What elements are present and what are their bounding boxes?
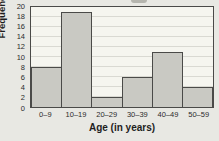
- x-tick-label: 20–29: [91, 110, 122, 119]
- x-tick-label: 10–19: [61, 110, 92, 119]
- y-tick-label: 10: [17, 54, 25, 61]
- x-axis-title: Age (in years): [30, 122, 214, 133]
- x-axis-tick-labels: 0–910–1920–2930–3940–4950–59: [30, 110, 214, 119]
- y-tick-label: 8: [21, 64, 25, 71]
- y-tick-label: 4: [21, 84, 25, 91]
- y-tick-label: 12: [17, 43, 25, 50]
- bar-10–19: [61, 12, 92, 107]
- y-axis-tick-labels: 02468101214161820: [0, 6, 27, 108]
- x-tick-label: 40–49: [153, 110, 184, 119]
- bar-0–9: [31, 67, 62, 107]
- y-tick-label: 18: [17, 13, 25, 20]
- y-tick-label: 6: [21, 74, 25, 81]
- plot-area: [30, 6, 214, 108]
- y-tick-label: 14: [17, 33, 25, 40]
- bar-series: [31, 7, 213, 107]
- y-tick-label: 20: [17, 3, 25, 10]
- cropped-title-fragment: [131, 0, 147, 3]
- x-tick-label: 50–59: [183, 110, 214, 119]
- chart-page: Frequency 02468101214161820 0–910–1920–2…: [0, 0, 219, 141]
- bar-40–49: [152, 52, 183, 107]
- x-tick-label: 30–39: [122, 110, 153, 119]
- bar-50–59: [182, 87, 213, 107]
- bar-30–39: [122, 77, 153, 107]
- x-tick-label: 0–9: [30, 110, 61, 119]
- y-tick-label: 2: [21, 94, 25, 101]
- bar-20–29: [91, 97, 122, 107]
- y-tick-label: 16: [17, 23, 25, 30]
- y-tick-label: 0: [21, 105, 25, 112]
